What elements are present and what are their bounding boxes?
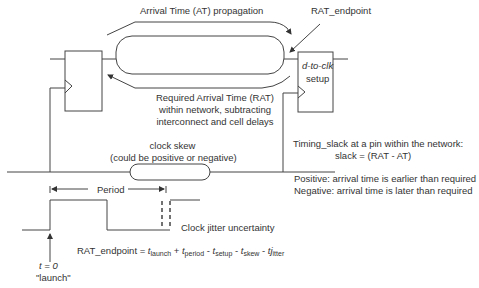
slack-negative: Negative: arrival time is later than req… (294, 185, 472, 196)
slack-definition: Timing_slack at a pin within the network… (293, 138, 463, 149)
rat-equation: RAT_endpoint = tlaunch + tperiod - tsetu… (77, 245, 284, 259)
t0-label: t = 0 (39, 260, 58, 271)
rat-endpoint-pointer (290, 24, 320, 52)
equation-term-itter: - tjitter (259, 245, 284, 256)
setup-label-line2: setup (306, 73, 329, 84)
setup-label-line1: d-to-clk (302, 60, 333, 71)
rat-endpoint-label: RAT_endpoint (311, 5, 371, 16)
launch-clock-wire (50, 88, 65, 172)
clock-waveform (22, 200, 170, 230)
equation-term-skew: - tskew (232, 245, 259, 256)
equation-lhs: RAT_endpoint = (77, 245, 148, 256)
launch-flipflop (65, 51, 102, 111)
launch-label: "launch" (36, 272, 71, 283)
clock-skew-note: (could be positive or negative) (110, 152, 235, 163)
launch-clock-pin-icon (65, 80, 72, 93)
jitter-label: Clock jitter uncertainty (181, 222, 274, 233)
slack-positive: Positive: arrival time is earlier than r… (294, 173, 476, 184)
combinational-network (116, 36, 284, 74)
at-propagation-arrow (107, 22, 291, 35)
capture-clock-pin-icon (298, 86, 305, 98)
equation-term-setup: - tsetup (204, 245, 232, 256)
slack-formula: slack = (RAT - AT) (335, 150, 411, 161)
rat-label-line3: interconnect and cell delays (135, 116, 295, 127)
at-propagation-label: Arrival Time (AT) propagation (140, 5, 263, 16)
equation-terms: tlaunch + tperiod - tsetup - tskew - tji… (148, 245, 284, 256)
rat-arrow (108, 75, 290, 88)
equation-term-period: + tperiod (171, 245, 204, 256)
period-label: Period (95, 184, 126, 195)
equation-term-launch: tlaunch (148, 245, 171, 256)
clock-skew-label: clock skew (110, 140, 235, 151)
rat-label-line1: Required Arrival Time (RAT) (135, 92, 295, 103)
clock-skew-element (130, 164, 210, 180)
rat-label-line2: within network, subtracting (135, 104, 295, 115)
